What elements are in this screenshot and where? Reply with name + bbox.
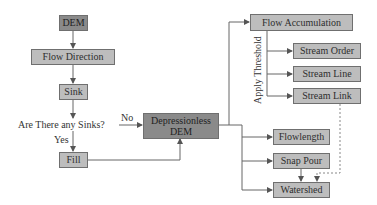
node-depressionless-label-line2: DEM	[170, 126, 192, 138]
node-flowlength: Flowlength	[273, 129, 330, 145]
node-sink: Sink	[59, 84, 88, 100]
node-stream-order: Stream Order	[293, 43, 361, 59]
node-flowlength-label: Flowlength	[279, 132, 325, 142]
node-sink-label: Sink	[64, 87, 82, 97]
node-watershed: Watershed	[273, 182, 330, 198]
node-snap-pour: Snap Pour	[273, 153, 330, 169]
node-flow-direction: Flow Direction	[31, 49, 115, 65]
no-label: No	[121, 113, 133, 123]
decision-label: Are There any Sinks?	[18, 120, 105, 130]
apply-threshold-label: Apply Threshold	[253, 36, 263, 104]
node-flow-accumulation: Flow Accumulation	[250, 14, 353, 31]
node-stream-link: Stream Link	[293, 88, 361, 104]
node-flow-accumulation-label: Flow Accumulation	[262, 18, 341, 28]
node-stream-line: Stream Line	[293, 66, 361, 82]
node-depressionless-dem: Depressionless DEM	[143, 113, 219, 139]
node-flow-direction-label: Flow Direction	[43, 52, 104, 62]
node-dem: DEM	[59, 15, 88, 31]
node-depressionless-label-line1: Depressionless	[151, 115, 211, 127]
node-snap-pour-label: Snap Pour	[281, 156, 322, 166]
node-dem-label: DEM	[62, 18, 84, 28]
flowchart-canvas: DEM Flow Direction Sink Are There any Si…	[0, 0, 377, 205]
node-stream-line-label: Stream Line	[302, 69, 351, 79]
yes-label: Yes	[54, 135, 69, 145]
node-fill: Fill	[59, 152, 88, 168]
node-watershed-label: Watershed	[281, 185, 323, 195]
node-fill-label: Fill	[67, 155, 81, 165]
node-stream-link-label: Stream Link	[302, 91, 352, 101]
node-stream-order-label: Stream Order	[300, 46, 354, 56]
